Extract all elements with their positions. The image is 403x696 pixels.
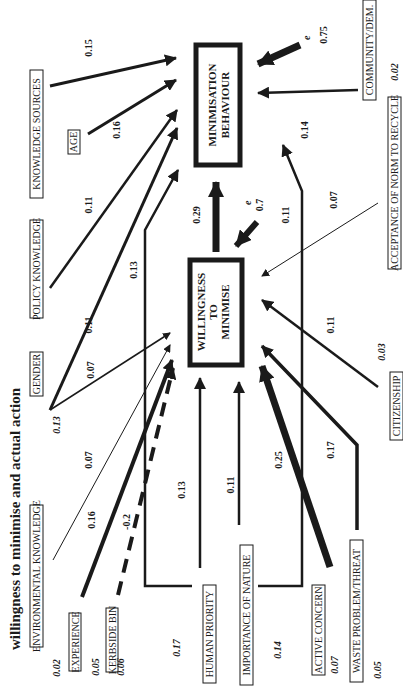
svg-text:ENVIRONMENTAL KNOWLEDGE: ENVIRONMENTAL KNOWLEDGE (31, 500, 42, 652)
svg-text:0.13: 0.13 (128, 261, 139, 279)
node-community-dem: COMMUNITY/DEM. (363, 0, 376, 100)
svg-text:0.17: 0.17 (325, 441, 336, 459)
svg-text:IMPORTANCE OF NATURE: IMPORTANCE OF NATURE (241, 555, 252, 676)
svg-text:0.75: 0.75 (318, 26, 329, 44)
svg-text:0.07: 0.07 (328, 191, 339, 209)
svg-text:0.14: 0.14 (299, 121, 310, 139)
svg-text:0.05: 0.05 (90, 658, 101, 676)
node-importance-of-nature: IMPORTANCE OF NATURE (240, 545, 253, 685)
svg-text:0.02: 0.02 (51, 659, 62, 677)
error-arrow-behaviour (258, 45, 300, 64)
svg-text:0.07: 0.07 (85, 361, 96, 379)
svg-text:BEHAVIOUR: BEHAVIOUR (219, 71, 231, 138)
node-policy-knowledge: POLICY KNOWLEDGE (30, 218, 43, 320)
svg-text:0.03: 0.03 (376, 343, 387, 361)
svg-text:0.16: 0.16 (86, 511, 97, 529)
svg-text:ACCEPTANCE OF NORM TO RECYCLE: ACCEPTANCE OF NORM TO RECYCLE (389, 95, 400, 271)
svg-text:TO: TO (207, 304, 219, 320)
svg-text:0.25: 0.25 (273, 451, 284, 469)
svg-text:HUMAN PRIORITY: HUMAN PRIORITY (204, 591, 215, 677)
svg-text:0.11: 0.11 (225, 477, 236, 494)
svg-text:0.05: 0.05 (372, 661, 383, 679)
node-active-concern: ACTIVE CONCERN (312, 585, 325, 675)
svg-text:0.14: 0.14 (272, 641, 283, 659)
svg-text:CITIZENSHIP: CITIZENSHIP (391, 375, 402, 436)
node-human-priority: HUMAN PRIORITY (203, 585, 216, 683)
svg-text:0.07: 0.07 (83, 451, 94, 469)
node-citizenship: CITIZENSHIP (390, 372, 403, 440)
svg-text:0.11: 0.11 (83, 317, 94, 334)
svg-text:e: e (301, 35, 312, 40)
svg-text:e: e (242, 200, 253, 205)
svg-text:0.17: 0.17 (171, 638, 182, 657)
svg-text:GENDER: GENDER (31, 353, 42, 394)
path-diagram: willingness to minimise and actual actio… (0, 0, 403, 696)
svg-text:0.07: 0.07 (329, 655, 340, 674)
svg-text:COMMUNITY/DEM.: COMMUNITY/DEM. (364, 5, 375, 95)
node-gender: GENDER (30, 352, 43, 396)
node-environmental-knowledge: ENVIRONMENTAL KNOWLEDGE (30, 500, 43, 652)
svg-text:MINIMISATION: MINIMISATION (206, 63, 218, 146)
svg-text:KNOWLEDGE SOURCES: KNOWLEDGE SOURCES (31, 78, 42, 189)
svg-text:0.11: 0.11 (325, 317, 336, 334)
diagram-title: willingness to minimise and actual actio… (7, 387, 23, 650)
svg-text:WILLINGNESS: WILLINGNESS (195, 273, 207, 351)
error-arrow-willingness (236, 222, 257, 246)
svg-text:MINIMISE: MINIMISE (219, 284, 231, 339)
svg-text:0.7: 0.7 (254, 199, 265, 212)
svg-text:0.13: 0.13 (51, 416, 62, 434)
svg-text:-0.2: -0.2 (121, 514, 132, 530)
svg-text:0.13: 0.13 (176, 481, 187, 499)
svg-text:0.06: 0.06 (115, 658, 126, 676)
svg-text:WASTE PROBLEM/THREAT: WASTE PROBLEM/THREAT (351, 549, 362, 673)
svg-text:ACTIVE CONCERN: ACTIVE CONCERN (313, 587, 324, 674)
node-acceptance-of-norm: ACCEPTANCE OF NORM TO RECYCLE (388, 95, 401, 271)
svg-text:0.16: 0.16 (111, 121, 122, 139)
node-minimisation-behaviour: MINIMISATION BEHAVIOUR (196, 45, 240, 165)
svg-text:0.02: 0.02 (389, 63, 400, 81)
svg-text:AGE: AGE (68, 132, 79, 153)
node-age: AGE (68, 130, 80, 154)
svg-text:0.15: 0.15 (83, 39, 94, 57)
node-waste-problem-threat: WASTE PROBLEM/THREAT (350, 540, 363, 682)
svg-text:0.11: 0.11 (83, 197, 94, 214)
svg-text:EXPERIENCE: EXPERIENCE (70, 611, 81, 672)
svg-text:POLICY KNOWLEDGE: POLICY KNOWLEDGE (31, 218, 42, 320)
node-willingness-to-minimise: WILLINGNESS TO MINIMISE (190, 260, 242, 365)
svg-text:0.11: 0.11 (280, 207, 291, 224)
node-experience: EXPERIENCE (69, 611, 81, 672)
svg-text:0.29: 0.29 (191, 206, 202, 224)
node-knowledge-sources: KNOWLEDGE SOURCES (30, 70, 43, 198)
